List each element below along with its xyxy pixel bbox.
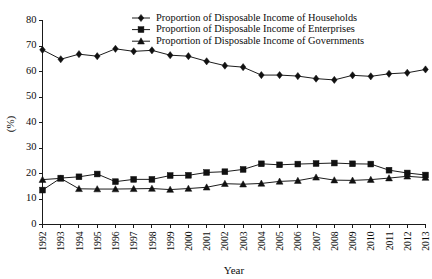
data-point-marker — [76, 51, 82, 58]
data-point-marker — [386, 167, 392, 173]
y-axis-tick-label: 40 — [26, 116, 37, 127]
x-axis-tick-label: 2005 — [274, 231, 285, 250]
data-point-marker — [240, 167, 246, 173]
data-point-marker — [368, 73, 374, 80]
data-point-marker — [277, 162, 283, 168]
data-point-marker — [58, 56, 64, 63]
x-axis-tick-label: 1994 — [74, 231, 85, 250]
data-point-marker — [423, 66, 429, 73]
x-axis-tick-label: 1996 — [110, 231, 121, 250]
x-axis-tick-label: 2004 — [256, 231, 267, 250]
y-axis-tick-label: 10 — [26, 192, 37, 203]
data-point-marker — [131, 48, 137, 55]
legend-item-2: Proportion of Disposable Income of Enter… — [132, 23, 355, 34]
legend-item-1: Proportion of Disposable Income of House… — [132, 12, 357, 23]
data-point-marker — [149, 47, 155, 54]
legend-item-3: Proportion of Disposable Income of Gover… — [132, 35, 364, 46]
data-point-marker — [204, 170, 210, 176]
y-axis-tick-label: 80 — [26, 14, 37, 25]
data-point-marker — [222, 62, 228, 69]
x-axis-tick-label: 2009 — [347, 231, 358, 250]
data-point-marker — [295, 161, 301, 167]
y-axis-tick-label: 30 — [26, 141, 37, 152]
x-axis-tick-label: 2001 — [201, 231, 212, 250]
legend-label: Proportion of Disposable Income of House… — [156, 12, 357, 23]
x-axis-tick-label: 1993 — [55, 231, 66, 250]
chart-container: 01020304050607080 1992199319941995199619… — [0, 0, 432, 279]
x-axis-title: Year — [224, 264, 245, 276]
x-axis-tick-label: 2012 — [402, 231, 413, 250]
y-axis-tick-label: 20 — [26, 167, 37, 178]
x-axis-tick-label: 1995 — [92, 231, 103, 250]
data-point-marker — [167, 52, 173, 59]
x-axis-tick-label: 1997 — [128, 231, 139, 250]
y-axis: 01020304050607080 — [26, 14, 43, 229]
legend-marker-icon — [138, 27, 144, 33]
legend-marker-icon — [138, 14, 144, 21]
legend-label: Proportion of Disposable Income of Enter… — [156, 23, 355, 34]
series-line — [43, 176, 426, 189]
data-point-marker — [258, 161, 264, 167]
data-point-marker — [149, 176, 155, 182]
y-axis-title: (%) — [4, 115, 17, 132]
data-point-marker — [186, 172, 192, 178]
legend-label: Proportion of Disposable Income of Gover… — [156, 35, 364, 46]
data-point-marker — [94, 53, 100, 60]
data-point-marker — [332, 76, 338, 83]
x-axis-tick-label: 2011 — [384, 231, 395, 250]
y-axis-tick-label: 60 — [26, 65, 37, 76]
data-point-marker — [113, 179, 119, 185]
data-point-marker — [277, 71, 283, 78]
data-point-marker — [94, 171, 100, 177]
x-axis-tick-label: 1998 — [147, 231, 158, 250]
y-axis-tick-label: 0 — [31, 218, 36, 229]
data-point-marker — [113, 45, 119, 52]
data-point-marker — [368, 161, 374, 167]
data-point-marker — [131, 176, 137, 182]
data-point-marker — [222, 169, 228, 175]
x-axis-tick-label: 1992 — [37, 231, 48, 250]
series-line — [43, 49, 426, 80]
data-point-marker — [313, 161, 319, 167]
data-point-marker — [404, 69, 410, 76]
y-axis-tick-label: 70 — [26, 39, 37, 50]
data-point-marker — [259, 71, 265, 78]
data-point-marker — [240, 64, 246, 71]
series-1 — [40, 45, 429, 83]
y-axis-tick-label: 50 — [26, 90, 37, 101]
chart-legend: Proportion of Disposable Income of House… — [132, 12, 364, 46]
data-point-marker — [331, 160, 337, 166]
data-point-marker — [204, 58, 210, 65]
data-point-marker — [350, 72, 356, 79]
x-axis: 1992199319941995199619971998199920002001… — [37, 225, 431, 251]
x-axis-tick-label: 2002 — [219, 231, 230, 250]
x-axis-tick-label: 2013 — [420, 231, 431, 250]
data-point-marker — [167, 173, 173, 179]
data-point-marker — [386, 70, 392, 77]
x-axis-tick-label: 2007 — [311, 231, 322, 250]
x-axis-tick-label: 2006 — [292, 231, 303, 250]
data-point-marker — [313, 174, 320, 180]
data-point-marker — [186, 53, 192, 60]
data-point-marker — [295, 72, 301, 79]
data-point-marker — [313, 75, 319, 82]
x-axis-tick-label: 2003 — [238, 231, 249, 250]
data-point-marker — [40, 187, 46, 193]
x-axis-tick-label: 1999 — [165, 231, 176, 250]
line-chart: 01020304050607080 1992199319941995199619… — [0, 0, 432, 279]
data-point-marker — [350, 161, 356, 167]
data-series-group — [39, 45, 429, 193]
data-point-marker — [76, 174, 82, 180]
x-axis-tick-label: 2008 — [329, 231, 340, 250]
x-axis-tick-label: 2000 — [183, 231, 194, 250]
x-axis-tick-label: 2010 — [365, 231, 376, 250]
data-point-marker — [40, 46, 46, 53]
